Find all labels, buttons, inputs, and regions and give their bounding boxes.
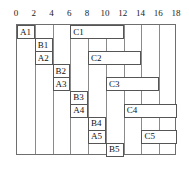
x-tick-label: 10 bbox=[100, 8, 109, 18]
task-bar[interactable]: B4 bbox=[88, 117, 106, 131]
x-tick-label: 14 bbox=[136, 8, 145, 18]
task-bar-label: C5 bbox=[142, 132, 155, 141]
task-bar-label: C2 bbox=[89, 54, 102, 63]
task-bar[interactable]: C2 bbox=[88, 51, 141, 65]
task-bar[interactable]: C5 bbox=[141, 130, 177, 144]
task-bar[interactable]: C3 bbox=[106, 77, 159, 91]
task-bar-label: B4 bbox=[89, 119, 102, 128]
gantt-chart: 024681012141618 A1C1B1A2C2B2A3C3B3A4C4B4… bbox=[0, 0, 189, 170]
x-tick-label: 8 bbox=[85, 8, 90, 18]
task-bar-label: A2 bbox=[36, 54, 49, 63]
task-bar-label: B2 bbox=[54, 67, 67, 76]
plot-area: A1C1B1A2C2B2A3C3B3A4C4B4A5C5B5 bbox=[16, 24, 176, 155]
task-bar-label: A5 bbox=[89, 132, 102, 141]
task-bar[interactable]: A1 bbox=[17, 25, 35, 39]
x-tick-label: 0 bbox=[14, 8, 19, 18]
task-bar[interactable]: B1 bbox=[35, 38, 53, 52]
task-bar-label: A4 bbox=[71, 106, 84, 115]
task-bar[interactable]: C4 bbox=[124, 104, 177, 118]
x-tick-label: 16 bbox=[154, 8, 163, 18]
x-axis-tick-labels: 024681012141618 bbox=[0, 0, 189, 24]
task-bar[interactable]: B5 bbox=[106, 143, 124, 157]
task-bar[interactable]: A2 bbox=[35, 51, 53, 65]
task-bar-label: B3 bbox=[71, 93, 84, 102]
task-bar[interactable]: B3 bbox=[70, 91, 88, 105]
task-bar-label: C3 bbox=[107, 80, 120, 89]
task-bar-label: B5 bbox=[107, 145, 120, 154]
task-bar-label: C4 bbox=[125, 106, 138, 115]
x-tick-label: 2 bbox=[32, 8, 37, 18]
x-tick-label: 6 bbox=[67, 8, 72, 18]
task-bar[interactable]: A3 bbox=[53, 77, 71, 91]
x-tick-label: 18 bbox=[172, 8, 181, 18]
task-bar[interactable]: A5 bbox=[88, 130, 106, 144]
task-bar-label: A1 bbox=[18, 28, 31, 37]
x-tick-label: 4 bbox=[49, 8, 54, 18]
task-bar[interactable]: C1 bbox=[70, 25, 123, 39]
task-bar[interactable]: A4 bbox=[70, 104, 88, 118]
task-bar-label: B1 bbox=[36, 41, 49, 50]
task-bar-label: C1 bbox=[71, 28, 84, 37]
task-bar[interactable]: B2 bbox=[53, 64, 71, 78]
task-bar-label: A3 bbox=[54, 80, 67, 89]
x-tick-label: 12 bbox=[118, 8, 127, 18]
